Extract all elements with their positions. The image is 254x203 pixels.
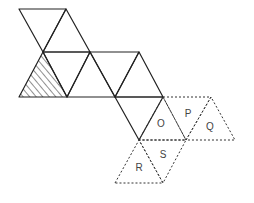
dashed-triangle-s <box>139 140 186 183</box>
solid-triangle <box>90 52 139 97</box>
solid-triangle <box>115 52 163 97</box>
label-q: Q <box>206 121 214 132</box>
triangle-net-diagram: O P Q R S <box>0 0 254 203</box>
label-o: O <box>157 118 165 129</box>
shaded-triangle <box>19 52 67 97</box>
solid-triangle <box>43 9 90 52</box>
label-r: R <box>135 162 142 173</box>
solid-triangle <box>67 52 115 97</box>
dashed-triangles <box>115 97 235 183</box>
label-s: S <box>160 149 167 160</box>
solid-triangle <box>115 97 163 140</box>
solid-triangle <box>19 9 66 52</box>
dashed-triangle-q <box>186 97 235 140</box>
label-p: P <box>185 108 192 119</box>
